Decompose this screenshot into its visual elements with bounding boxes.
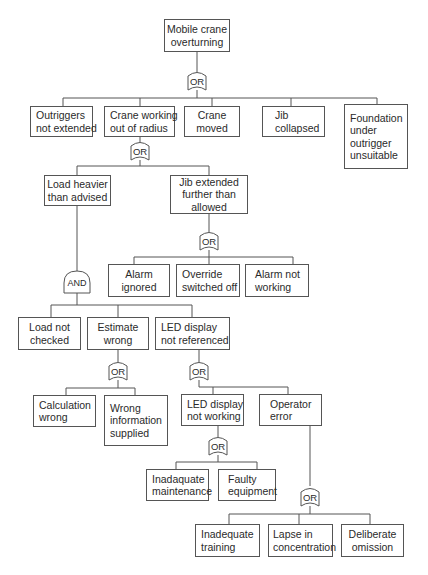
event-alarm-ignored: Alarm ignored: [108, 264, 170, 297]
event-text: collapsed: [275, 122, 319, 135]
event-text: Jib extended: [179, 176, 239, 189]
event-text: concentration: [273, 541, 336, 554]
event-text: working: [255, 281, 291, 294]
event-text: LED display: [187, 398, 243, 411]
event-text: unsuitable: [350, 149, 398, 162]
event-calculation-wrong: Calculation wrong: [33, 395, 96, 427]
event-text: Mobile crane: [167, 23, 227, 36]
event-text: wrong: [104, 334, 133, 347]
event-text: Alarm: [125, 268, 152, 281]
event-text: not working: [187, 410, 241, 423]
event-text: Faulty: [228, 473, 257, 486]
event-text: training: [201, 541, 235, 554]
event-text: LED display: [161, 321, 217, 334]
gate-g2-label: OR: [128, 146, 152, 157]
event-text: Override: [182, 268, 222, 281]
event-inadequate-training: Inadequate training: [195, 524, 260, 557]
event-text: further than: [182, 188, 236, 201]
event-text: Inadequate: [201, 528, 254, 541]
event-faulty-equipment: Faulty equipment: [218, 469, 276, 501]
event-top-mobile-crane-overturning: Mobile crane overturning: [164, 19, 230, 52]
event-text: than advised: [48, 191, 108, 204]
event-text: Alarm not: [255, 268, 300, 281]
event-text: equipment: [228, 485, 277, 498]
gate-g1-label: OR: [185, 76, 209, 87]
event-text: information: [110, 414, 162, 427]
event-text: Inadaquate: [152, 473, 205, 486]
event-override-switched-off: Override switched off: [176, 264, 240, 297]
gate-g7-label: OR: [206, 441, 230, 452]
event-crane-working-out-of-radius: Crane working out of radius: [104, 106, 175, 137]
event-led-display-not-referenced: LED display not referenced: [155, 317, 230, 350]
event-outriggers-not-extended: Outriggers not extended: [30, 106, 93, 137]
event-jib-collapsed: Jib collapsed: [262, 106, 325, 137]
event-load-heavier-than-advised: Load heavier than advised: [44, 175, 111, 206]
event-text: not referenced: [161, 334, 229, 347]
event-wrong-information-supplied: Wrong information supplied: [104, 395, 168, 446]
event-foundation-under-outrigger-unsuitable: Foundation under outrigger unsuitable: [344, 104, 408, 169]
event-text: Calculation: [39, 399, 91, 412]
event-led-display-not-working: LED display not working: [181, 394, 244, 426]
event-text: Lapse in: [273, 528, 313, 541]
event-text: out of radius: [110, 122, 168, 135]
event-text: allowed: [191, 201, 227, 214]
gate-g8-label: OR: [298, 492, 322, 503]
event-load-not-checked: Load not checked: [18, 317, 81, 350]
event-text: omission: [352, 541, 393, 554]
event-text: Outriggers: [36, 109, 85, 122]
event-text: Deliberate: [349, 528, 397, 541]
event-text: Crane working: [110, 109, 178, 122]
event-text: not extended: [36, 122, 97, 135]
event-text: Wrong: [110, 402, 141, 415]
event-text: checked: [30, 334, 69, 347]
event-estimate-wrong: Estimate wrong: [87, 317, 149, 350]
event-lapse-in-concentration: Lapse in concentration: [268, 524, 333, 557]
event-text: overturning: [171, 36, 224, 49]
event-operator-error: Operator error: [259, 394, 322, 426]
event-text: error: [270, 410, 292, 423]
event-text: Foundation: [350, 112, 403, 125]
event-text: Jib: [275, 109, 288, 122]
event-text: supplied: [110, 427, 149, 440]
gate-g3-label: OR: [197, 236, 221, 247]
event-crane-moved: Crane moved: [184, 106, 240, 137]
event-text: under: [350, 124, 377, 137]
event-text: Operator: [270, 398, 311, 411]
event-text: wrong: [39, 411, 68, 424]
event-text: Load heavier: [47, 178, 108, 191]
event-text: moved: [196, 122, 228, 135]
event-text: Load not: [29, 321, 70, 334]
event-text: maintenance: [152, 485, 212, 498]
event-deliberate-omission: Deliberate omission: [341, 524, 404, 557]
event-text: outrigger: [350, 137, 391, 150]
event-inadequate-maintenance: Inadaquate maintenance: [146, 469, 209, 501]
event-jib-extended-further-than-allowed: Jib extended further than allowed: [170, 175, 248, 214]
gate-g4-label: AND: [65, 278, 89, 288]
gate-g6-label: OR: [187, 366, 211, 377]
event-text: Estimate: [98, 321, 139, 334]
gate-g5-label: OR: [106, 366, 130, 377]
event-text: ignored: [121, 281, 156, 294]
event-text: Crane: [198, 109, 227, 122]
event-text: switched off: [182, 281, 237, 294]
event-alarm-not-working: Alarm not working: [245, 264, 309, 297]
